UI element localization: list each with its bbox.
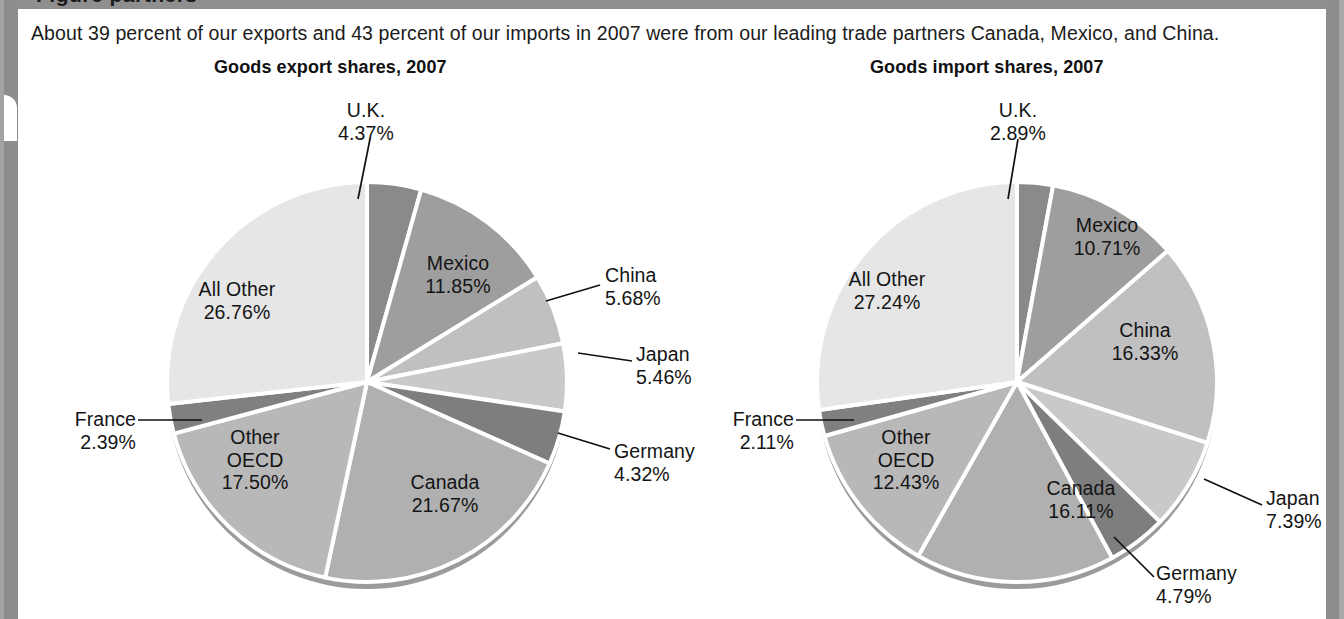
figure-page: Figure partners About 39 percent of our … xyxy=(0,0,1344,619)
cropped-caption-strip: Figure partners xyxy=(0,0,1344,9)
right-label-canada: Canada 16.11% xyxy=(1016,477,1146,522)
right-label-china: China 16.33% xyxy=(1080,319,1210,364)
left-label-japan: Japan 5.46% xyxy=(636,343,692,388)
right-label-other-oecd: Other OECD 12.43% xyxy=(846,426,966,494)
leader-line-1 xyxy=(546,285,600,301)
left-pie-chart xyxy=(167,182,567,589)
left-label-mexico: Mexico 11.85% xyxy=(393,252,523,297)
left-label-other-oecd: Other OECD 17.50% xyxy=(195,426,315,494)
figure-panel: About 39 percent of our exports and 43 p… xyxy=(18,9,1326,619)
right-label-mexico: Mexico 10.71% xyxy=(1042,214,1172,259)
right-label-japan: Japan 7.39% xyxy=(1266,487,1322,532)
cropped-caption-text: Figure partners xyxy=(36,0,198,7)
right-label-france: France 2.11% xyxy=(690,408,794,453)
leader-line-2 xyxy=(578,353,632,361)
page-left-notch xyxy=(4,95,17,141)
left-label-germany: Germany 4.32% xyxy=(614,440,695,485)
page-right-gutter xyxy=(1326,0,1339,619)
page-left-gutter xyxy=(4,0,18,619)
left-label-canada: Canada 21.67% xyxy=(380,471,510,516)
left-label-all-other: All Other 26.76% xyxy=(162,278,312,323)
leader-line-6 xyxy=(1204,479,1262,505)
page-right-edge xyxy=(1339,0,1344,619)
left-label-china: China 5.68% xyxy=(605,264,661,309)
right-label-germany: Germany 4.79% xyxy=(1156,562,1237,607)
left-label-france: France 2.39% xyxy=(32,408,136,453)
left-label-uk: U.K. 4.37% xyxy=(306,99,426,144)
leader-line-3 xyxy=(558,433,610,449)
right-label-uk: U.K. 2.89% xyxy=(958,99,1078,144)
right-label-all-other: All Other 27.24% xyxy=(812,268,962,313)
